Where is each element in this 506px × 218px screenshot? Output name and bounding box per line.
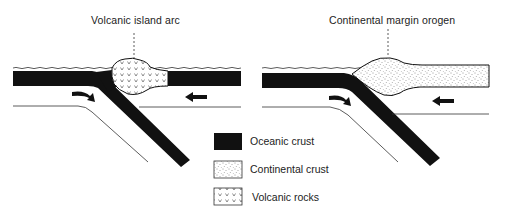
overriding-oceanic-plate <box>160 71 241 86</box>
left-panel-volcanic-island-arc <box>13 33 241 167</box>
motion-arrow-left-right-panel <box>432 96 454 106</box>
motion-arrow-right-right-panel <box>329 96 351 107</box>
motion-arrow-right-left-panel <box>72 92 95 103</box>
legend-label-continental-crust: Continental crust <box>250 163 329 175</box>
motion-arrow-left-left-panel <box>185 92 207 102</box>
volcanic-arc-body <box>112 58 168 94</box>
subduction-diagram <box>0 0 506 218</box>
panel-title-volcanic-island-arc: Volcanic island arc <box>91 14 180 26</box>
panel-title-continental-margin-orogen: Continental margin orogen <box>329 14 455 26</box>
continental-crust-block <box>352 58 489 96</box>
sea-surface-right <box>262 68 370 69</box>
legend-swatch-oceanic <box>214 133 242 150</box>
legend-label-volcanic-rocks: Volcanic rocks <box>252 191 319 203</box>
legend <box>214 133 242 205</box>
legend-swatch-volcanic <box>214 188 242 205</box>
legend-label-oceanic-crust: Oceanic crust <box>250 135 314 147</box>
legend-swatch-continental <box>214 161 242 178</box>
